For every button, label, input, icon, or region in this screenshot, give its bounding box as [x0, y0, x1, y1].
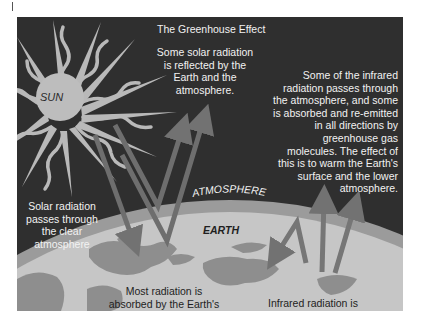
sun-label: SUN [40, 91, 63, 103]
diagram-title: The Greenhouse Effect [157, 23, 327, 36]
corner-mark [12, 2, 13, 11]
caption-infrared: Some of the infrared radiation passes th… [222, 69, 398, 195]
arrow-ir-escapes-1 [322, 199, 324, 272]
caption-absorbed: Most radiation is absorbed by the Earth'… [105, 285, 223, 311]
earth-label: EARTH [203, 224, 239, 236]
greenhouse-effect-diagram: ATMOSPHERE SUN EARTH The Greenhouse Effe… [17, 17, 403, 311]
caption-passes-through: Solar radiation passes through the clear… [17, 200, 107, 250]
caption-emitted: Infrared radiation is emitted from the E… [263, 297, 363, 311]
